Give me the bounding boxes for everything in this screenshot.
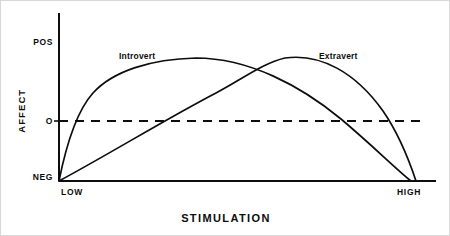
- x-tick-label-high: HIGH: [397, 188, 421, 197]
- y-tick-label-pos: POS: [27, 38, 53, 47]
- y-tick-label-zero: O: [27, 117, 53, 126]
- y-axis-title: AFFECT: [17, 79, 27, 143]
- x-axis-title: STIMULATION: [1, 213, 450, 224]
- curve-extravert: [59, 57, 416, 181]
- y-tick-label-neg: NEG: [25, 173, 53, 182]
- series-label-extravert: Extravert: [319, 52, 358, 61]
- series-label-introvert: Introvert: [119, 52, 155, 61]
- curve-introvert: [59, 58, 411, 181]
- plot-area: [1, 1, 450, 236]
- affect-stimulation-figure: POS O NEG LOW HIGH AFFECT STIMULATION In…: [0, 0, 450, 236]
- x-tick-label-low: LOW: [61, 188, 83, 197]
